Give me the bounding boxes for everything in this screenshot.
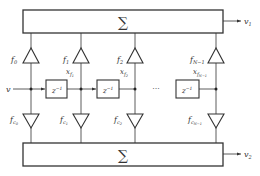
bottom-gain-triangle [127, 114, 143, 128]
bottom-gain-triangle [73, 114, 89, 128]
svg-text:f0: f0 [10, 55, 18, 65]
bottom-sum-symbol: ∑ [118, 147, 128, 163]
svg-text:xf1: xf1 [66, 68, 74, 78]
svg-text:f1: f1 [62, 55, 69, 65]
top-gain-triangle [23, 48, 39, 63]
top-sum-symbol: ∑ [118, 14, 128, 30]
svg-text:fc2: fc2 [113, 115, 123, 126]
svg-text:fcN−1: fcN−1 [187, 115, 202, 126]
svg-text:xfN−1: xfN−1 [193, 68, 207, 78]
svg-text:fc1: fc1 [59, 115, 68, 126]
svg-text:v2: v2 [244, 150, 252, 160]
bottom-gain-triangle [208, 114, 224, 128]
svg-text:v1: v1 [244, 17, 252, 27]
input-label: v [6, 85, 11, 94]
svg-text:fN−1: fN−1 [189, 55, 205, 65]
bottom-gain-triangle [23, 114, 39, 128]
filter-bank-diagram: ∑ ∑ v1 v2 v z−1 z−1 z−1 ··· f0 f1 f2 fN−… [0, 0, 260, 176]
ellipsis: ··· [152, 84, 160, 93]
svg-text:fc0: fc0 [9, 115, 19, 126]
svg-text:f2: f2 [116, 55, 123, 65]
top-gain-triangle [208, 48, 224, 63]
top-gain-triangle [127, 48, 143, 63]
svg-text:xf2: xf2 [120, 68, 129, 78]
top-gain-triangle [73, 48, 89, 63]
